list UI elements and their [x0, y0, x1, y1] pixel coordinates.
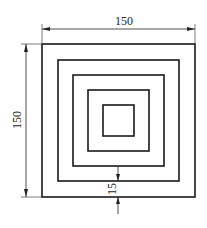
spacing-dimension: 15 — [105, 166, 120, 214]
arrow-down-icon — [116, 174, 120, 181]
height-label: 150 — [10, 111, 24, 129]
arrow-up-icon — [24, 44, 28, 52]
arrow-left-icon — [42, 27, 50, 31]
square-4 — [88, 90, 149, 151]
width-label: 150 — [115, 14, 133, 28]
spacing-label: 15 — [105, 183, 119, 195]
height-dimension: 150 — [10, 44, 42, 197]
square-2 — [58, 60, 179, 181]
arrow-down-icon — [24, 189, 28, 197]
arrow-up-icon — [116, 197, 120, 204]
drawing-canvas: 150 150 15 — [0, 0, 207, 228]
arrow-right-icon — [187, 27, 195, 31]
square-inner — [103, 105, 134, 136]
square-3 — [73, 75, 164, 166]
width-dimension: 150 — [42, 14, 195, 44]
